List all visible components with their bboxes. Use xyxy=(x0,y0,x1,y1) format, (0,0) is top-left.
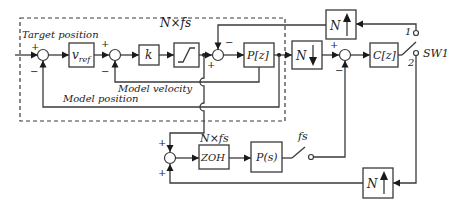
arrow-icon xyxy=(285,52,292,59)
arrow-icon xyxy=(167,52,174,59)
arrow-icon xyxy=(102,52,109,59)
arrow-icon xyxy=(393,180,400,187)
sampling-switch-blade xyxy=(292,147,305,158)
lower-rate-label: N×fs xyxy=(199,132,229,145)
svg-text:+: + xyxy=(158,167,166,178)
summing-junction-3 xyxy=(213,50,224,61)
svg-text:−: − xyxy=(101,66,109,77)
svg-text:−: − xyxy=(225,37,233,48)
model-position-label: Model position xyxy=(62,93,138,104)
sampling-switch-terminal xyxy=(309,155,314,160)
svg-text:−: − xyxy=(30,66,38,77)
arrow-icon xyxy=(215,43,222,50)
arrow-icon xyxy=(132,52,139,59)
summing-junction-2 xyxy=(110,50,121,61)
svg-text:+: + xyxy=(158,137,166,148)
arrow-icon xyxy=(342,61,349,68)
arrow-icon xyxy=(244,155,251,162)
target-position-label: Target position xyxy=(22,29,99,40)
arrow-icon xyxy=(167,145,174,152)
svg-text:P[z]: P[z] xyxy=(246,49,269,62)
arrow-icon xyxy=(356,21,363,28)
arrow-icon xyxy=(112,61,119,68)
arrow-icon xyxy=(167,164,174,171)
svg-text:1: 1 xyxy=(405,26,411,37)
arrow-icon xyxy=(332,52,339,59)
svg-text:+: + xyxy=(31,41,39,52)
svg-text:+: + xyxy=(101,38,109,49)
summing-junction-5 xyxy=(165,153,176,164)
arrow-icon xyxy=(363,52,370,59)
svg-text:N: N xyxy=(366,177,378,191)
svg-text:k: k xyxy=(145,48,152,62)
arrow-icon xyxy=(192,155,199,162)
svg-text:+: + xyxy=(207,59,215,70)
switch-terminal-1 xyxy=(414,31,419,36)
arrow-icon xyxy=(40,61,47,68)
outer-rate-label: N×fs xyxy=(159,16,191,30)
summing-junction-1 xyxy=(38,50,49,61)
switch-terminal-2 xyxy=(414,51,419,56)
sampling-rate-label: fs xyxy=(297,130,308,143)
svg-text:N: N xyxy=(329,19,341,33)
svg-text:C[z]: C[z] xyxy=(373,49,397,62)
svg-text:+: + xyxy=(330,39,338,50)
arrow-icon xyxy=(237,52,244,59)
block-diagram: N×fs Target position + − vref + − k + − … xyxy=(0,0,468,209)
arrow-icon xyxy=(62,52,69,59)
arrow-icon xyxy=(205,52,212,59)
svg-text:2: 2 xyxy=(407,57,414,68)
switch-sw1-label: SW1 xyxy=(423,47,449,60)
svg-text:ZOH: ZOH xyxy=(200,152,225,163)
summing-junction-4 xyxy=(340,50,351,61)
svg-text:N: N xyxy=(295,49,307,63)
svg-text:P(s): P(s) xyxy=(255,151,278,164)
